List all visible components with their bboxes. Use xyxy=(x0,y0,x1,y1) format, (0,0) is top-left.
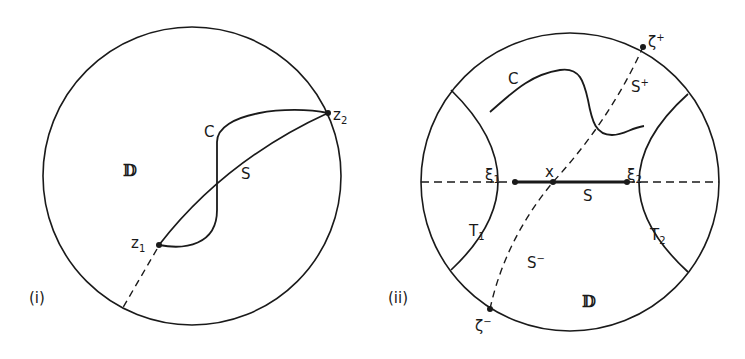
panel-caption-i: (i) xyxy=(29,289,45,307)
point-z1 xyxy=(156,242,162,248)
label-s-plus: S+ xyxy=(631,77,649,96)
label-t2: T2 xyxy=(649,226,666,246)
point-xi1 xyxy=(512,179,518,185)
label-disk: 𝔻 xyxy=(123,161,137,180)
panel-i: C S 𝔻 z1 z2 (i) xyxy=(29,27,347,325)
label-c: C xyxy=(204,123,214,141)
unit-disk-boundary xyxy=(43,27,341,325)
label-zeta-minus: ζ− xyxy=(475,316,492,335)
label-zeta-plus: ζ+ xyxy=(648,32,665,51)
diagram-canvas: C S 𝔻 z1 z2 (i) C S S+ S− ξ1 ξ2 xyxy=(0,0,745,359)
label-s-minus: S− xyxy=(527,253,545,272)
point-zeta-plus xyxy=(640,44,646,50)
label-x: x xyxy=(545,163,554,181)
point-z2 xyxy=(325,110,331,116)
panel-caption-ii: (ii) xyxy=(388,289,408,307)
label-z1: z1 xyxy=(131,234,145,254)
label-s: S xyxy=(241,165,251,183)
label-disk: 𝔻 xyxy=(582,292,596,311)
label-s: S xyxy=(583,187,593,205)
point-zeta-minus xyxy=(487,306,493,312)
geodesic-extension-dashed xyxy=(121,249,157,311)
label-c: C xyxy=(508,70,518,88)
panel-ii: C S S+ S− ξ1 ξ2 x ζ+ ζ− T1 T2 𝔻 (ii) xyxy=(388,32,719,335)
label-t1: T1 xyxy=(468,222,485,242)
label-z2: z2 xyxy=(333,106,347,126)
